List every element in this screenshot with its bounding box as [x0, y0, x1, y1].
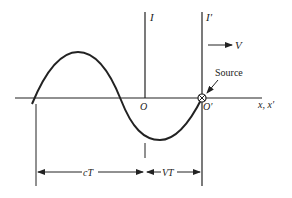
frame-I-label: I: [149, 11, 155, 23]
origin-O-prime-label: O′: [203, 101, 213, 112]
velocity-label: V: [235, 39, 243, 51]
cT-label: cT: [83, 167, 94, 178]
source-pointer-arrow: [207, 80, 218, 93]
origin-O-label: O: [140, 101, 147, 112]
axis-label: x, x′: [257, 99, 275, 110]
frame-I-prime-label: I′: [205, 11, 213, 23]
wave-curve: [32, 52, 202, 140]
wave-diagram: I I′ V Source O O′ x, x′ cT VT: [0, 0, 292, 198]
VT-label: VT: [162, 167, 175, 178]
source-label: Source: [215, 67, 243, 78]
